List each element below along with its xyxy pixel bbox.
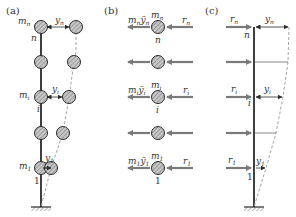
force-n-label: rn — [182, 15, 190, 26]
panel-a: (a) mn n yn mi i yi — [6, 5, 83, 211]
mass-i-icon — [152, 91, 165, 104]
panel-a-label: (a) — [6, 5, 20, 16]
force-1-label: r1 — [228, 155, 236, 166]
disp-1-label: y1 — [255, 156, 265, 167]
inertia-n-label: mnÿn — [128, 15, 150, 26]
mass-i-label: mi — [151, 80, 162, 91]
disp-i-label: yi — [263, 84, 271, 95]
force-1-label: r1 — [183, 156, 191, 167]
mass-n-label: mn — [18, 16, 31, 27]
diagram-canvas: (a) mn n yn mi i yi — [0, 0, 296, 217]
mass-i-icon — [35, 91, 48, 104]
mass-icon — [152, 127, 165, 140]
node-i-label: i — [248, 98, 251, 108]
node-i-label: i — [156, 105, 159, 115]
displaced-mass-icon — [68, 56, 81, 69]
node-n-label: n — [31, 33, 37, 43]
panel-b: (b) mnÿn mn n rn miÿi mi i — [104, 5, 193, 186]
disp-n-label: yn — [264, 14, 274, 25]
mass-1-icon — [152, 162, 165, 175]
deflected-shape-line — [254, 27, 289, 207]
disp-1-label: y1 — [44, 153, 54, 164]
mass-n-label: mn — [151, 10, 164, 21]
force-i-label: ri — [231, 84, 237, 95]
panel-c: (c) rn n yn ri i — [205, 5, 289, 211]
fixed-support-icon — [31, 207, 51, 211]
mass-icon — [152, 56, 165, 69]
inertia-i-label: miÿi — [128, 85, 146, 96]
inertia-arrows — [128, 27, 150, 168]
node-i-label: i — [37, 104, 40, 114]
deformed-shape-line — [41, 27, 76, 207]
fixed-support-icon — [244, 207, 264, 211]
node-1-label: 1 — [34, 176, 40, 186]
displaced-mass-n-icon — [70, 21, 83, 34]
mass-icon — [35, 127, 48, 140]
inertia-1-label: m1ÿ1 — [128, 156, 149, 167]
mass-1-label: m1 — [19, 161, 31, 172]
panel-c-label: (c) — [205, 5, 219, 16]
restoring-force-arrows — [167, 27, 193, 168]
displaced-mass-i-icon — [63, 91, 76, 104]
node-1-label: 1 — [155, 176, 161, 186]
force-i-label: ri — [183, 85, 189, 96]
mass-n-icon — [152, 21, 165, 34]
mass-i-label: mi — [19, 90, 30, 101]
mass-1-label: m1 — [151, 151, 163, 162]
mass-n-icon — [35, 21, 48, 34]
node-1-label: 1 — [247, 172, 253, 182]
node-n-label: n — [244, 30, 250, 40]
mass-icon — [35, 56, 48, 69]
panel-b-label: (b) — [104, 5, 118, 16]
disp-i-label: yi — [51, 84, 59, 95]
displaced-mass-icon — [57, 127, 70, 140]
disp-n-label: yn — [54, 15, 64, 26]
node-n-label: n — [155, 35, 161, 45]
force-n-label: rn — [230, 14, 238, 25]
